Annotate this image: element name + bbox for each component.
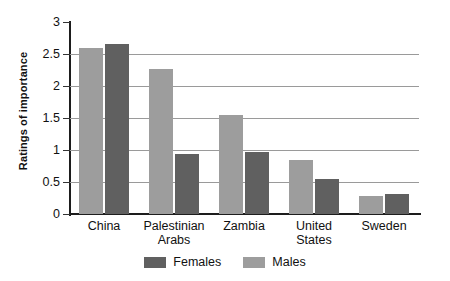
y-axis-tick-label: 1.5: [43, 111, 60, 125]
bar-chart-figure: Ratings of importance 32.521.510.50 Chin…: [0, 0, 450, 281]
legend-item: Females: [144, 255, 221, 269]
legend-label: Females: [173, 255, 221, 269]
bar-males: [149, 69, 173, 214]
bar-females: [315, 179, 339, 214]
plot-area: 32.521.510.50: [69, 22, 419, 214]
bar-group: [139, 22, 209, 214]
x-axis-category-label: UnitedStates: [279, 219, 349, 247]
x-axis-category-label: China: [69, 219, 139, 233]
legend-swatch-females: [144, 257, 166, 268]
x-axis-category-label: Sweden: [349, 219, 419, 233]
legend-item: Males: [243, 255, 305, 269]
x-axis-category-label-line: Zambia: [209, 219, 279, 233]
y-axis-tick-label: 0.5: [43, 175, 60, 189]
bar-females: [105, 44, 129, 214]
y-axis-tick: [63, 214, 70, 215]
x-axis-category-label-line: Arabs: [139, 233, 209, 247]
x-axis-category-label: PalestinianArabs: [139, 219, 209, 247]
y-axis-label: Ratings of importance: [17, 36, 29, 186]
y-axis-tick-label: 2.5: [43, 47, 60, 61]
x-axis-category-label-line: Sweden: [349, 219, 419, 233]
bar-males: [219, 115, 243, 214]
y-axis-tick-label: 3: [53, 15, 60, 29]
x-axis-category-label-line: States: [279, 233, 349, 247]
legend-swatch-males: [243, 257, 265, 268]
bar-males: [289, 160, 313, 214]
bar-females: [245, 152, 269, 214]
y-axis-tick-label: 2: [53, 79, 60, 93]
y-axis-tick-label: 1: [53, 143, 60, 157]
x-axis-category-label: Zambia: [209, 219, 279, 233]
bar-females: [385, 194, 409, 214]
x-axis-category-label-line: China: [69, 219, 139, 233]
x-axis-category-label-line: Palestinian: [139, 219, 209, 233]
bar-males: [359, 196, 383, 214]
y-axis-tick-label: 0: [53, 207, 60, 221]
bar-group: [349, 22, 419, 214]
chart-legend: FemalesMales: [0, 255, 450, 269]
legend-label: Males: [272, 255, 305, 269]
x-axis-category-label-line: United: [279, 219, 349, 233]
bar-group: [209, 22, 279, 214]
bar-females: [175, 154, 199, 214]
bar-group: [279, 22, 349, 214]
bar-males: [79, 48, 103, 214]
bar-group: [69, 22, 139, 214]
